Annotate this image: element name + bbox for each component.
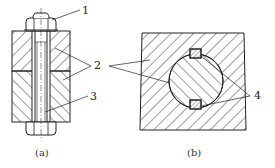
label-3: 3 xyxy=(90,91,97,102)
keyed-shaft-b xyxy=(109,33,250,130)
label-1: 1 xyxy=(82,5,89,16)
label-2: 2 xyxy=(94,60,101,71)
caption-b: (b) xyxy=(187,148,201,158)
label-4: 4 xyxy=(254,90,261,101)
technical-drawing xyxy=(0,0,275,168)
caption-a: (a) xyxy=(35,148,49,158)
bolt-joint-a xyxy=(12,8,91,140)
